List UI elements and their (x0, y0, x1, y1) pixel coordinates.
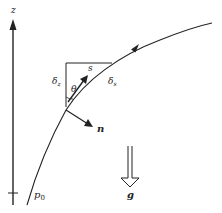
trajectory-curve: p0 (27, 23, 212, 205)
delta-z-label: δz (52, 76, 61, 87)
tangent-label: s (88, 63, 93, 73)
gravity-label: g (127, 189, 134, 200)
z-axis-label: z (10, 5, 16, 15)
gravity-arrow: g (121, 146, 139, 200)
z-axis: z (8, 5, 18, 205)
displacement-triangle: δz θ δs (52, 63, 117, 107)
theta-label: θ (71, 84, 77, 94)
curve-direction-arrow-icon (131, 44, 139, 53)
tangent-arrow-icon (80, 75, 88, 84)
normal-vector: n (66, 110, 104, 134)
hollow-down-arrow-icon (121, 146, 139, 187)
z-axis-arrow-icon (10, 19, 17, 30)
delta-s-label: δs (108, 76, 117, 87)
normal-label: n (97, 123, 104, 134)
p0-label: p0 (34, 189, 45, 202)
diagram-canvas: z p0 δz θ δs s n g (0, 0, 222, 213)
